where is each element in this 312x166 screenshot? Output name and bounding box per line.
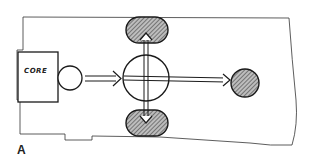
bottom-node [126,110,168,136]
arrow-entry-to-hub [85,71,121,86]
core-box [18,52,58,102]
hub-circle [123,55,169,101]
figure-label: A [17,143,26,157]
entry-circle [58,66,82,90]
right-node [231,69,259,97]
site-diagram [0,0,312,166]
core-label: CORE [24,67,47,75]
